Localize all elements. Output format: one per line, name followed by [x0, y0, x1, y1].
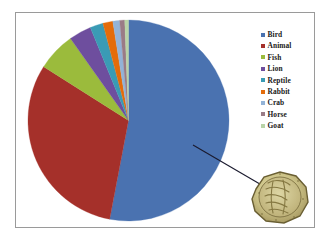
legend-item-reptile: Reptile [261, 75, 317, 86]
legend-item-label: Lion [268, 63, 283, 74]
legend-swatch-icon [261, 33, 265, 37]
inset-artifact-photo [246, 169, 312, 226]
artifact-illustration [246, 169, 312, 226]
chart-frame: BirdAnimalFishLionReptileRabbitCrabHorse… [15, 12, 315, 228]
legend-item-horse: Horse [261, 109, 317, 120]
legend-item-label: Crab [268, 97, 285, 108]
legend-item-goat: Goat [261, 120, 317, 131]
legend-swatch-icon [261, 124, 265, 128]
legend-item-label: Bird [268, 29, 283, 40]
legend-item-animal: Animal [261, 40, 317, 51]
legend-item-label: Horse [268, 109, 287, 120]
legend-swatch-icon [261, 90, 265, 94]
legend-item-lion: Lion [261, 63, 317, 74]
legend-item-rabbit: Rabbit [261, 86, 317, 97]
legend-swatch-icon [261, 101, 265, 105]
legend-item-label: Reptile [268, 75, 291, 86]
legend-item-bird: Bird [261, 29, 317, 40]
legend-item-fish: Fish [261, 52, 317, 63]
legend-item-label: Rabbit [268, 86, 290, 97]
legend-swatch-icon [261, 112, 265, 116]
legend-item-label: Fish [268, 52, 282, 63]
chart-screenshot: BirdAnimalFishLionReptileRabbitCrabHorse… [0, 0, 330, 243]
legend-swatch-icon [261, 44, 265, 48]
plot-area: BirdAnimalFishLionReptileRabbitCrabHorse… [16, 13, 314, 227]
legend-swatch-icon [261, 67, 265, 71]
legend-item-label: Animal [268, 40, 292, 51]
legend-swatch-icon [261, 78, 265, 82]
legend-item-label: Goat [268, 120, 284, 131]
legend-swatch-icon [261, 55, 265, 59]
legend: BirdAnimalFishLionReptileRabbitCrabHorse… [261, 29, 317, 132]
legend-item-crab: Crab [261, 97, 317, 108]
